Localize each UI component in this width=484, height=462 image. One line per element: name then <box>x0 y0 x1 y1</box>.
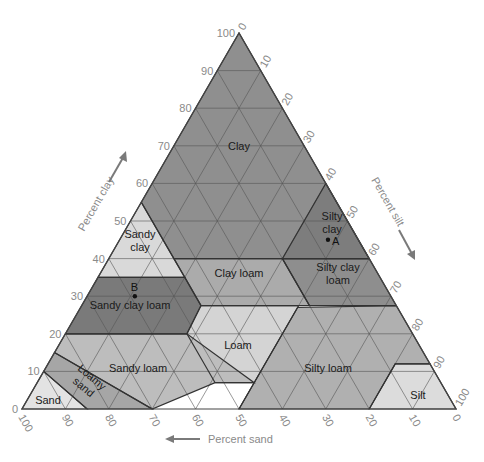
silt-axis-arrow <box>399 230 415 260</box>
sand-tick: 70 <box>146 412 163 429</box>
silt-axis-label: Percent silt <box>369 175 407 228</box>
sand-tick: 80 <box>103 412 120 429</box>
sand-tick: 40 <box>277 412 294 429</box>
clay-tick: 100 <box>217 27 235 39</box>
silt-tick: 30 <box>300 128 317 145</box>
sand-tick: 20 <box>363 412 380 429</box>
silt-tick: 50 <box>344 203 361 220</box>
point-label: A <box>332 235 340 247</box>
silt-tick: 20 <box>279 91 296 108</box>
sand-tick: 60 <box>190 412 207 429</box>
point-label: B <box>131 281 138 293</box>
sand-tick: 90 <box>60 412 77 429</box>
clay-axis-arrow <box>109 151 127 182</box>
region-label: Sand <box>35 394 61 406</box>
silt-tick: 0 <box>235 21 248 32</box>
clay-tick: 80 <box>179 102 191 114</box>
clay-axis-title: Percent clay <box>75 174 116 233</box>
clay-tick: 60 <box>136 177 148 189</box>
silt-tick: 90 <box>431 354 448 371</box>
sand-tick: 10 <box>407 412 424 429</box>
silt-tick: 80 <box>409 316 426 333</box>
clay-tick: 70 <box>158 140 170 152</box>
region-label: loam <box>326 274 350 286</box>
region-label: clay <box>322 223 342 235</box>
region-label: Sandy <box>124 228 156 240</box>
silt-tick: 70 <box>387 279 404 296</box>
region-label: Silty loam <box>304 362 352 374</box>
region-label: Silty <box>322 210 343 222</box>
sand-tick: 100 <box>16 412 36 434</box>
sample-point-b <box>133 294 137 298</box>
sand-axis-label: Percent sand <box>208 433 273 445</box>
clay-tick: 90 <box>201 65 213 77</box>
clay-axis-label: Percent clay <box>75 174 116 233</box>
clay-tick: 40 <box>93 253 105 265</box>
silt-tick: 40 <box>322 166 339 183</box>
silt-tick: 60 <box>366 241 383 258</box>
region-label: Silty clay <box>316 261 360 273</box>
region-label: Sandy clay loam <box>90 299 171 311</box>
sand-tick: 50 <box>233 412 250 429</box>
region-label: Silt <box>410 389 425 401</box>
region-label: clay <box>130 241 150 253</box>
region-label: Clay <box>228 140 251 152</box>
silt-tick: 10 <box>257 53 274 70</box>
sample-point-a <box>326 238 330 242</box>
clay-tick: 30 <box>71 290 83 302</box>
region-label: Sandy loam <box>109 362 167 374</box>
clay-tick: 0 <box>12 403 18 415</box>
sand-axis-title: Percent sand <box>165 433 273 445</box>
region-label: Loam <box>224 339 252 351</box>
region-label: Clay loam <box>215 267 264 279</box>
silt-tick: 100 <box>452 386 472 408</box>
soil-texture-triangle: ClaySandyclaySiltyclaySandy clay loamCla… <box>0 0 484 462</box>
sand-tick: 0 <box>450 412 463 423</box>
silt-axis-title: Percent silt <box>369 175 407 228</box>
clay-tick: 50 <box>114 215 126 227</box>
clay-tick: 20 <box>49 328 61 340</box>
sand-tick: 30 <box>320 412 337 429</box>
clay-tick: 10 <box>27 365 39 377</box>
